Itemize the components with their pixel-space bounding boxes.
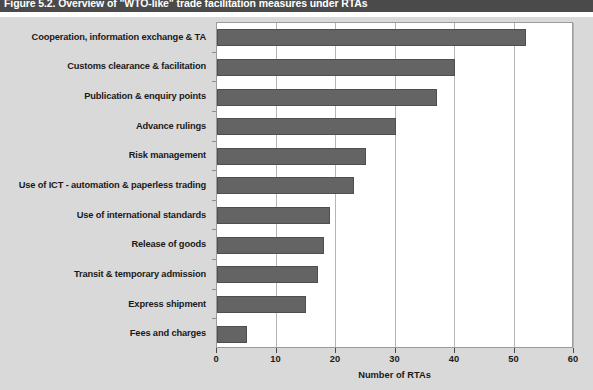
- bar-row: [217, 23, 572, 53]
- bar: [217, 118, 396, 135]
- category-label: Transit & temporary admission: [74, 259, 206, 289]
- category-label: Release of goods: [131, 229, 206, 259]
- category-label: Use of ICT - automation & paperless trad…: [19, 170, 206, 200]
- bar-row: [217, 290, 572, 320]
- bar-row: [217, 260, 572, 290]
- bar: [217, 89, 437, 106]
- y-axis-category-labels: Cooperation, information exchange & TACu…: [0, 22, 212, 348]
- bar-row: [217, 319, 572, 349]
- figure-container: Figure 5.2. Overview of "WTO-like" trade…: [0, 0, 593, 390]
- category-label: Risk management: [129, 141, 206, 171]
- bar: [217, 207, 330, 224]
- figure-body: Cooperation, information exchange & TACu…: [0, 17, 593, 390]
- bar: [217, 237, 324, 254]
- bar-row: [217, 112, 572, 142]
- category-label: Cooperation, information exchange & TA: [32, 22, 206, 52]
- x-axis-tick-20: [335, 348, 336, 353]
- x-axis-tick-label: 40: [449, 354, 459, 364]
- bar-row: [217, 142, 572, 172]
- x-axis-tick-0: [216, 348, 217, 353]
- x-axis-tick-10: [276, 348, 277, 353]
- bar-row: [217, 53, 572, 83]
- bar-row: [217, 171, 572, 201]
- x-axis-tick-label: 50: [508, 354, 518, 364]
- bar: [217, 296, 306, 313]
- bar-row: [217, 82, 572, 112]
- bar: [217, 29, 526, 46]
- figure-title-banner: Figure 5.2. Overview of "WTO-like" trade…: [0, 0, 593, 12]
- category-label: Customs clearance & facilitation: [67, 52, 206, 82]
- bar: [217, 148, 366, 165]
- gridline-60: [573, 23, 574, 347]
- x-axis-tick-30: [395, 348, 396, 353]
- x-axis-tick-60: [573, 348, 574, 353]
- bar-row: [217, 230, 572, 260]
- figure-title: Figure 5.2. Overview of "WTO-like" trade…: [0, 0, 593, 12]
- bar-row: [217, 201, 572, 231]
- bar-series: [217, 23, 572, 347]
- plot-area: [216, 22, 573, 348]
- category-label: Publication & enquiry points: [84, 81, 206, 111]
- bar: [217, 266, 318, 283]
- x-axis-title: Number of RTAs: [216, 370, 573, 380]
- x-axis-tick-label: 20: [330, 354, 340, 364]
- x-axis-tick-label: 0: [213, 354, 218, 364]
- x-axis-tick-label: 30: [389, 354, 399, 364]
- bar: [217, 59, 455, 76]
- x-axis: Number of RTAs 0102030405060: [216, 348, 573, 388]
- category-label: Fees and charges: [130, 318, 206, 348]
- bar: [217, 177, 354, 194]
- x-axis-tick-label: 10: [270, 354, 280, 364]
- x-axis-tick-50: [514, 348, 515, 353]
- category-label: Advance rulings: [136, 111, 206, 141]
- x-axis-tick-40: [454, 348, 455, 353]
- x-axis-tick-label: 60: [568, 354, 578, 364]
- bar: [217, 326, 247, 343]
- category-label: Use of international standards: [77, 200, 206, 230]
- category-label: Express shipment: [128, 289, 206, 319]
